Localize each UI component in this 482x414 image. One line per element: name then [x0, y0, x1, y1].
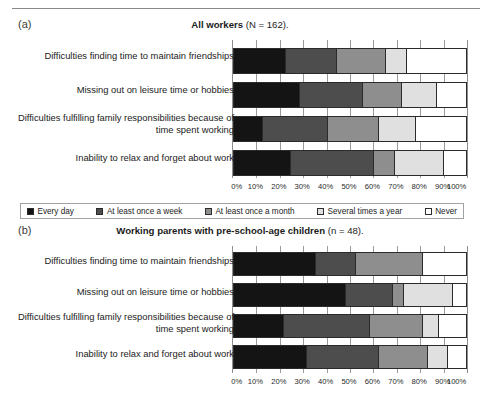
x-tick-label: 40%: [318, 182, 333, 191]
panel-a-rows: [233, 40, 467, 178]
x-tick-label: 80%: [412, 377, 427, 386]
bar-segment[interactable]: [234, 315, 283, 337]
bar-segment[interactable]: [345, 284, 391, 306]
bar-segment[interactable]: [422, 315, 438, 337]
x-tick-label: 10%: [248, 182, 263, 191]
x-tick-label: 70%: [388, 182, 403, 191]
stacked-bar[interactable]: [233, 150, 467, 176]
bar-row: [233, 314, 467, 338]
x-tick-label: 0%: [231, 182, 242, 191]
panel-b-title-main: Working parents with pre-school-age chil…: [116, 225, 325, 236]
legend-item[interactable]: At least once a week: [96, 207, 182, 216]
legend-item[interactable]: Never: [425, 207, 457, 216]
panel-a-plot-area: [232, 40, 468, 178]
panel-b-x-axis: 0%10%20%30%40%50%60%70%80%90%100%: [232, 377, 466, 389]
bar-segment[interactable]: [234, 346, 306, 368]
bar-segment[interactable]: [234, 151, 290, 175]
bar-segment[interactable]: [369, 315, 422, 337]
bar-segment[interactable]: [262, 117, 327, 141]
bar-row: [233, 48, 467, 74]
legend-item[interactable]: Every day: [27, 207, 74, 216]
bar-segment[interactable]: [378, 117, 415, 141]
bar-segment[interactable]: [452, 284, 466, 306]
x-tick-label: 50%: [341, 182, 356, 191]
bar-segment[interactable]: [394, 151, 443, 175]
bar-segment[interactable]: [355, 253, 422, 275]
bar-segment[interactable]: [392, 284, 404, 306]
legend-label: Every day: [38, 207, 74, 216]
panel-b-rows: [233, 246, 467, 373]
bar-segment[interactable]: [290, 151, 374, 175]
category-label: Inability to relax and forget about work: [4, 152, 234, 164]
bar-segment[interactable]: [401, 83, 436, 107]
x-tick-label: 70%: [388, 377, 403, 386]
bar-segment[interactable]: [378, 346, 427, 368]
legend-item[interactable]: Several times a year: [317, 207, 402, 216]
bar-segment[interactable]: [285, 49, 336, 73]
bar-segment[interactable]: [234, 117, 262, 141]
legend-swatch-icon: [425, 208, 432, 215]
category-label: Inability to relax and forget about work: [4, 348, 234, 360]
x-tick-label: 60%: [365, 182, 380, 191]
panel-b-title: Working parents with pre-school-age chil…: [60, 225, 420, 236]
header-rule: [12, 8, 480, 9]
panel-a-title: All workers (N = 162).: [60, 19, 420, 30]
legend-swatch-icon: [317, 208, 324, 215]
bar-segment[interactable]: [306, 346, 378, 368]
legend-label: At least once a week: [107, 207, 183, 216]
stacked-bar[interactable]: [233, 116, 467, 142]
panel-a-legend: Every dayAt least once a weekAt least on…: [20, 203, 464, 219]
panel-a-title-n: (N = 162).: [243, 19, 289, 30]
bar-segment[interactable]: [336, 49, 385, 73]
bar-segment[interactable]: [362, 83, 401, 107]
x-tick-label: 20%: [271, 182, 286, 191]
bar-row: [233, 82, 467, 108]
legend-swatch-icon: [205, 208, 212, 215]
stacked-bar[interactable]: [233, 48, 467, 74]
running-head: [0, 0, 482, 12]
bar-segment[interactable]: [447, 346, 466, 368]
x-tick-label: 20%: [271, 377, 286, 386]
stacked-bar[interactable]: [233, 314, 467, 338]
panel-b-letter: (b): [18, 224, 31, 236]
bar-row: [233, 283, 467, 307]
bar-segment[interactable]: [415, 117, 466, 141]
bar-segment[interactable]: [283, 315, 369, 337]
bar-segment[interactable]: [438, 315, 466, 337]
legend-label: At least once a month: [215, 207, 294, 216]
bar-segment[interactable]: [422, 253, 466, 275]
bar-segment[interactable]: [234, 253, 315, 275]
legend-item[interactable]: At least once a month: [205, 207, 295, 216]
bar-row: [233, 345, 467, 369]
x-tick-label: 100%: [447, 182, 466, 191]
panel-a-letter: (a): [18, 18, 31, 30]
bar-segment[interactable]: [436, 83, 466, 107]
x-tick-label: 80%: [412, 182, 427, 191]
stacked-bar[interactable]: [233, 283, 467, 307]
legend-swatch-icon: [96, 208, 103, 215]
x-tick-label: 100%: [447, 377, 466, 386]
bar-segment[interactable]: [299, 83, 362, 107]
bar-segment[interactable]: [427, 346, 448, 368]
bar-segment[interactable]: [443, 151, 466, 175]
bar-segment[interactable]: [234, 83, 299, 107]
legend-swatch-icon: [27, 208, 34, 215]
stacked-bar[interactable]: [233, 345, 467, 369]
stacked-bar[interactable]: [233, 252, 467, 276]
bar-segment[interactable]: [315, 253, 354, 275]
x-tick-label: 60%: [365, 377, 380, 386]
bar-segment[interactable]: [385, 49, 406, 73]
x-tick-label: 50%: [341, 377, 356, 386]
category-label: Missing out on leisure time or hobbies: [4, 84, 234, 96]
x-tick-label: 10%: [248, 377, 263, 386]
bar-segment[interactable]: [327, 117, 378, 141]
bar-segment[interactable]: [403, 284, 452, 306]
panel-a-title-main: All workers: [191, 19, 243, 30]
stacked-bar[interactable]: [233, 82, 467, 108]
panel-b-title-n: (n = 48).: [325, 225, 364, 236]
x-tick-label: 30%: [295, 377, 310, 386]
bar-segment[interactable]: [373, 151, 394, 175]
bar-segment[interactable]: [406, 49, 466, 73]
bar-segment[interactable]: [234, 49, 285, 73]
bar-segment[interactable]: [234, 284, 345, 306]
